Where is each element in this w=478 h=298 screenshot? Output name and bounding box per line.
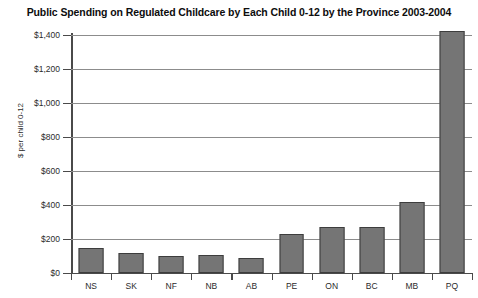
- bar-ab[interactable]: [239, 258, 264, 273]
- x-axis-label-ab: AB: [246, 281, 257, 291]
- y-axis-tick: [63, 103, 71, 104]
- x-axis-tick: [231, 273, 232, 280]
- bar-mb[interactable]: [399, 202, 424, 273]
- x-axis-label-pq: PQ: [446, 281, 458, 291]
- y-axis-tick-label: $0: [51, 268, 60, 278]
- bar-nf[interactable]: [159, 256, 184, 273]
- bar-slot: [151, 35, 191, 273]
- bar-slot: [432, 35, 472, 273]
- x-axis-label-ns: NS: [85, 281, 97, 291]
- y-axis-tick: [63, 69, 71, 70]
- bar-ns[interactable]: [79, 248, 104, 274]
- bar-sk[interactable]: [119, 253, 144, 273]
- x-axis-label-bc: BC: [366, 281, 378, 291]
- bar-slot: [312, 35, 352, 273]
- x-axis-tick: [472, 273, 473, 280]
- x-axis-tick: [111, 273, 112, 280]
- y-axis-tick: [63, 35, 71, 36]
- bar-on[interactable]: [319, 227, 344, 273]
- bar-slot: [231, 35, 271, 273]
- bar-slot: [111, 35, 151, 273]
- bar-chart: Public Spending on Regulated Childcare b…: [0, 0, 478, 298]
- y-axis-tick-label: $600: [41, 166, 60, 176]
- x-axis-tick: [151, 273, 152, 280]
- bars-layer: [71, 35, 472, 273]
- bar-bc[interactable]: [359, 227, 384, 273]
- x-axis-label-pe: PE: [286, 281, 297, 291]
- x-axis-tick: [432, 273, 433, 280]
- bar-pq[interactable]: [440, 31, 465, 273]
- x-axis-tick: [352, 273, 353, 280]
- x-axis-label-nf: NF: [166, 281, 177, 291]
- x-axis-tick: [272, 273, 273, 280]
- y-axis-tick-label: $1,400: [34, 30, 60, 40]
- y-axis-title: $ per child 0-12: [16, 71, 25, 191]
- y-axis-tick: [63, 171, 71, 172]
- x-axis-label-on: ON: [325, 281, 338, 291]
- x-axis-tick: [312, 273, 313, 280]
- bar-slot: [272, 35, 312, 273]
- x-axis-label-sk: SK: [125, 281, 136, 291]
- y-axis-tick-label: $800: [41, 132, 60, 142]
- y-axis-tick-label: $200: [41, 234, 60, 244]
- y-axis-tick: [63, 239, 71, 240]
- y-axis-tick-label: $1,200: [34, 64, 60, 74]
- chart-title: Public Spending on Regulated Childcare b…: [0, 6, 478, 18]
- x-axis-label-mb: MB: [405, 281, 418, 291]
- bar-slot: [392, 35, 432, 273]
- bar-slot: [71, 35, 111, 273]
- plot-area: $0$200$400$600$800$1,000$1,200$1,400: [71, 35, 472, 273]
- bar-slot: [352, 35, 392, 273]
- x-axis-tick: [392, 273, 393, 280]
- y-axis-tick: [63, 205, 71, 206]
- bar-slot: [191, 35, 231, 273]
- x-axis-tick: [191, 273, 192, 280]
- x-axis-tick: [71, 273, 72, 280]
- y-axis-tick: [63, 273, 71, 274]
- y-axis-tick: [63, 137, 71, 138]
- bar-nb[interactable]: [199, 255, 224, 273]
- y-axis-tick-label: $400: [41, 200, 60, 210]
- bar-pe[interactable]: [279, 234, 304, 273]
- y-axis-tick-label: $1,000: [34, 98, 60, 108]
- x-axis-label-nb: NB: [205, 281, 217, 291]
